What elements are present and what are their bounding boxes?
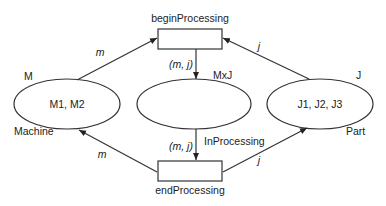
- begin-processing-label: beginProcessing: [151, 12, 229, 24]
- arc-begin-to-inprocessing: (m, j): [169, 49, 196, 79]
- transition-begin-processing: beginProcessing: [151, 12, 229, 49]
- arc-label: (m, j): [169, 140, 193, 152]
- place-inprocessing: MxJ InProcessing: [137, 69, 265, 147]
- arc-label: m: [98, 148, 107, 160]
- arc-label: m: [96, 46, 105, 58]
- transition-end-processing: endProcessing: [155, 161, 225, 196]
- arc-machine-to-begin: m: [77, 38, 157, 80]
- machine-tokens: M1, M2: [49, 98, 84, 110]
- part-type-label: J: [356, 69, 361, 81]
- inprocessing-name-label: InProcessing: [204, 135, 265, 147]
- part-tokens: J1, J2, J3: [298, 98, 343, 110]
- arc-part-to-begin: j: [223, 38, 309, 79]
- machine-name-label: Machine: [14, 125, 54, 137]
- place-part: J1, J2, J3 J Part: [267, 69, 373, 137]
- part-name-label: Part: [346, 125, 365, 137]
- arc-label: j: [256, 154, 261, 166]
- petri-net-diagram: M1, M2 M Machine MxJ InProcessing J1, J2…: [0, 0, 386, 206]
- arc-inprocessing-to-end: (m, j): [169, 129, 196, 160]
- place-machine: M1, M2 M Machine: [14, 70, 120, 137]
- end-processing-label: endProcessing: [155, 184, 225, 196]
- arc-label: j: [256, 40, 261, 52]
- inprocessing-type-label: MxJ: [213, 69, 232, 81]
- arc-label: (m, j): [169, 58, 193, 70]
- arc-end-to-machine: m: [79, 130, 157, 172]
- machine-type-label: M: [24, 70, 33, 82]
